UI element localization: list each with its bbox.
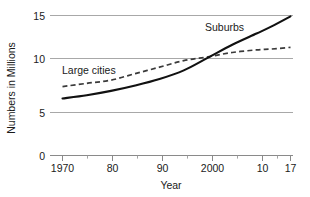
series-label-large-cities: Large cities [62,64,116,76]
x-tick-label-2017: 17 [285,162,297,174]
series-label-suburbs: Suburbs [205,21,244,33]
y-tick-label-0: 0 [39,150,45,162]
chart-svg: 15 10 5 0 1970 80 90 2000 10 17 Year Num… [0,0,310,197]
x-tick-label-1990: 90 [157,162,169,174]
y-tick-label-5: 5 [39,107,45,119]
x-axis-tick-labels: 1970 80 90 2000 10 17 [51,162,297,174]
x-tick-label-2000: 2000 [201,162,225,174]
y-axis-tick-labels: 15 10 5 0 [33,10,45,162]
y-axis-title: Numbers in Millions [5,42,17,134]
x-tick-label-1980: 80 [107,162,119,174]
line-chart-figure: 15 10 5 0 1970 80 90 2000 10 17 Year Num… [0,0,310,197]
y-tick-label-10: 10 [33,53,45,65]
series-line-suburbs [63,16,291,98]
y-tick-label-15: 15 [33,10,45,22]
x-axis-title: Year [160,179,182,191]
x-tick-label-2010: 10 [257,162,269,174]
x-axis-ticks [63,156,291,162]
x-tick-label-1970: 1970 [51,162,75,174]
data-series-group [63,16,291,98]
